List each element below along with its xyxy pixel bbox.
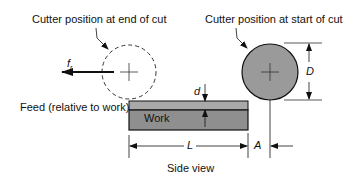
start-cut-label: Cutter position at start of cut <box>205 14 343 25</box>
end-cut-label: Cutter position at end of cut <box>32 14 167 25</box>
diameter-label: D <box>306 66 314 77</box>
feed-symbol: fr <box>67 58 72 71</box>
feed-subscript: r <box>70 64 72 71</box>
feed-relative-label: Feed (relative to work) <box>20 102 129 113</box>
depth-label: d <box>194 86 200 97</box>
approach-dimension <box>270 100 293 158</box>
cutter-start-position <box>242 44 298 100</box>
approach-label: A <box>254 140 261 151</box>
work-label: Work <box>144 113 169 124</box>
start-cut-leader-icon <box>236 28 247 48</box>
end-cut-leader-icon <box>96 28 108 49</box>
length-label: L <box>187 140 193 151</box>
caption: Side view <box>167 163 214 174</box>
